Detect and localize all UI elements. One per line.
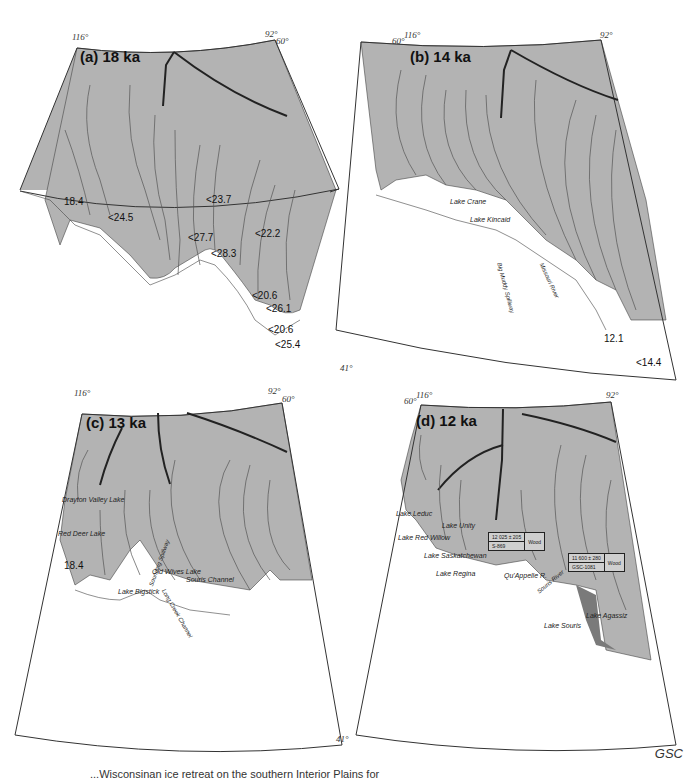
- map-d: [346, 400, 693, 760]
- date-label: <22.2: [255, 228, 280, 239]
- credit-label: GSC: [655, 746, 683, 761]
- place-label: Drayton Valley Lake: [62, 496, 92, 504]
- radiocarbon-lab: GSC-1081: [569, 563, 604, 571]
- date-label: <14.4: [636, 357, 661, 368]
- place-label: Souris Channel: [186, 576, 216, 584]
- date-label: <27.7: [188, 232, 213, 243]
- radiocarbon-material: Wood: [605, 554, 624, 571]
- date-label: <26.1: [266, 303, 291, 314]
- place-label: Lake Red Willow: [398, 534, 434, 542]
- radiocarbon-age: 12 025 ± 205: [489, 533, 524, 542]
- coord-lat-60: 60°: [282, 394, 295, 404]
- date-label: 18.4: [64, 196, 83, 207]
- place-label: Lake Souris: [544, 622, 570, 630]
- map-c: [0, 400, 346, 760]
- panel-b-14ka: 116° 60° 92° (b) 14 ka Lake Crane Lake K…: [346, 0, 693, 400]
- place-label: Lake Unity: [442, 522, 468, 530]
- date-label: <24.5: [108, 212, 133, 223]
- date-label: 18.4: [64, 560, 83, 571]
- radiocarbon-box-1: 12 025 ± 205S-869 Wood: [488, 532, 545, 551]
- place-label: Red Deer Lake: [58, 530, 86, 538]
- coord-lat-60: 60°: [392, 36, 405, 46]
- radiocarbon-age: 11 600 ± 280: [569, 554, 604, 563]
- figure-caption: ...Wisconsinan ice retreat on the southe…: [90, 768, 379, 778]
- place-label: Lake Bigstick: [118, 588, 148, 596]
- panel-title: (a) 18 ka: [80, 48, 140, 65]
- coord-lon-92: 92°: [606, 390, 619, 400]
- place-label: Lake Regina: [436, 570, 462, 578]
- radiocarbon-box-2: 11 600 ± 280GSC-1081 Wood: [568, 553, 625, 572]
- panel-a-18ka: 116° 92° 60° 41° (a) 18 ka 18.4 <24.5 <2…: [0, 0, 346, 400]
- place-label: Lake Crane: [450, 198, 480, 206]
- panel-title: (b) 14 ka: [410, 48, 471, 65]
- place-label: Lake Saskatchewan: [424, 552, 468, 560]
- coord-lon-92: 92°: [600, 30, 613, 40]
- panel-title: (c) 13 ka: [86, 414, 146, 431]
- panel-c-13ka: 116° 92° 60° 41° (c) 13 ka Drayton Valle…: [0, 400, 346, 760]
- coord-lon-116: 116°: [72, 32, 88, 42]
- map-b: [346, 0, 693, 400]
- date-label: <28.3: [211, 248, 236, 259]
- coord-lon-116: 116°: [416, 390, 432, 400]
- place-label: Lake Agassiz: [586, 612, 614, 620]
- radiocarbon-material: Wood: [525, 533, 544, 550]
- coord-lon-92: 92°: [268, 386, 281, 396]
- coord-lat-60: 60°: [404, 396, 417, 406]
- date-label: <23.7: [206, 194, 231, 205]
- coord-lon-116: 116°: [404, 30, 420, 40]
- date-label: <25.4: [275, 339, 300, 350]
- date-label: <20.6: [252, 290, 277, 301]
- date-label: 12.1: [604, 333, 623, 344]
- panel-title: (d) 12 ka: [416, 412, 477, 429]
- coord-lon-116: 116°: [74, 388, 90, 398]
- place-label: Lake Kincaid: [470, 216, 500, 224]
- coord-lat-60: 60°: [276, 36, 289, 46]
- place-label: Qu'Appelle R.: [504, 572, 534, 580]
- place-label: Lake Leduc: [396, 510, 422, 518]
- panel-d-12ka: 116° 60° 92° (d) 12 ka Lake Leduc Lake R…: [346, 400, 693, 760]
- date-label: <20.6: [268, 324, 293, 335]
- radiocarbon-lab: S-869: [489, 542, 524, 550]
